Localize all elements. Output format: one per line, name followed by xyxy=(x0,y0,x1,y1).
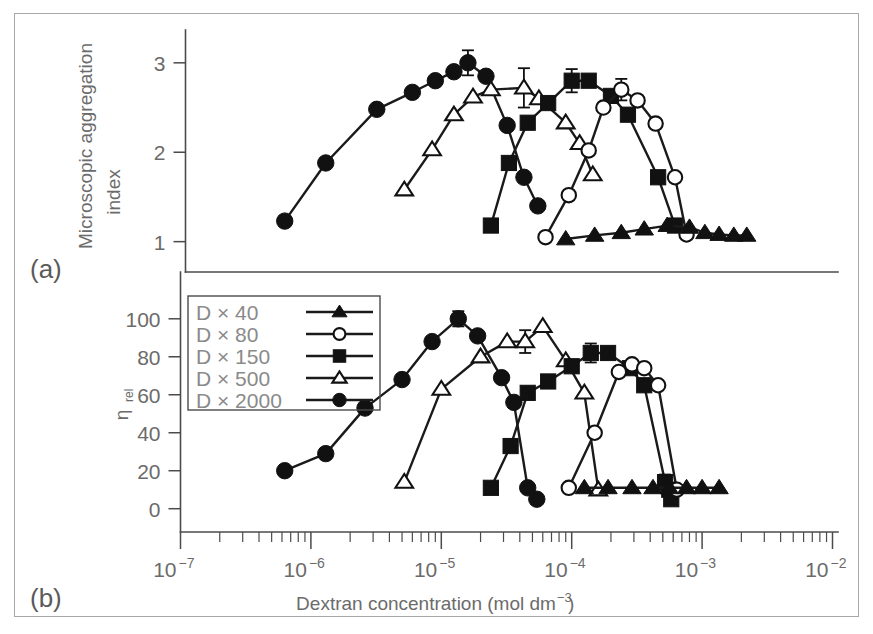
eta-symbol: η xyxy=(111,410,132,421)
data-point-marker xyxy=(587,426,601,440)
data-point-marker xyxy=(469,328,485,344)
data-point-marker xyxy=(493,369,509,385)
panel-b-y-tick-label: 60 xyxy=(137,384,160,407)
x-axis-tick-label: 10−4 xyxy=(544,555,586,581)
x-axis-title-close-paren: ) xyxy=(568,593,574,614)
data-point-marker xyxy=(584,166,602,180)
legend-item[interactable]: D × 2000 xyxy=(196,389,373,412)
data-point-marker xyxy=(651,170,666,185)
data-point-marker xyxy=(637,378,652,393)
data-point-marker xyxy=(530,198,546,214)
x-axis-tick-label: 10−2 xyxy=(805,555,847,581)
legend-item-label: D × 150 xyxy=(196,345,270,368)
panel-b-y-tick-label: 0 xyxy=(149,498,161,521)
data-point-marker xyxy=(564,359,579,374)
x-tick-mantissa: 10 xyxy=(544,558,567,581)
panel-a-y-tick-label: 1 xyxy=(154,231,166,254)
data-point-marker xyxy=(446,64,462,80)
data-point-marker xyxy=(423,141,441,155)
series-line xyxy=(546,90,687,238)
panel-a-y-tick-label: 3 xyxy=(154,52,166,75)
data-point-marker xyxy=(503,438,518,453)
x-axis-tick-label: 10−7 xyxy=(153,555,195,581)
legend-layer: D × 40D × 80D × 150D × 500D × 2000 xyxy=(188,296,380,412)
x-tick-mantissa: 10 xyxy=(805,558,828,581)
x-tick-mantissa: 10 xyxy=(675,558,698,581)
data-point-marker xyxy=(277,463,293,479)
x-axis-tick-label: 10−6 xyxy=(284,555,326,581)
data-point-marker xyxy=(395,474,413,488)
legend-item[interactable]: D × 80 xyxy=(196,323,373,346)
data-series xyxy=(277,50,547,229)
data-point-marker xyxy=(576,385,594,399)
data-point-marker xyxy=(357,400,373,416)
legend-item-label: D × 2000 xyxy=(196,389,282,412)
data-point-marker xyxy=(637,361,651,375)
data-point-marker xyxy=(614,82,628,96)
data-point-marker xyxy=(648,116,662,130)
x-tick-mantissa: 10 xyxy=(414,558,437,581)
panel-b-y-tick-label: 80 xyxy=(137,346,160,369)
data-point-marker xyxy=(575,479,593,493)
data-point-marker xyxy=(538,230,552,244)
data-point-marker xyxy=(623,479,641,493)
data-point-marker xyxy=(600,345,615,360)
data-point-marker xyxy=(612,365,626,379)
x-tick-exponent: −3 xyxy=(700,555,716,571)
x-tick-mantissa: 10 xyxy=(284,558,307,581)
legend-item[interactable]: D × 500 xyxy=(196,367,373,390)
data-point-marker xyxy=(693,479,711,493)
x-tick-mantissa: 10 xyxy=(153,558,176,581)
panel-a-y-tick-label: 2 xyxy=(154,141,166,164)
data-point-marker xyxy=(334,328,346,340)
data-point-marker xyxy=(277,213,293,229)
data-point-marker xyxy=(564,73,579,88)
panel-b-series-layer xyxy=(277,311,729,508)
data-point-marker xyxy=(516,169,532,185)
data-point-marker xyxy=(394,371,410,387)
labels-layer: Microscopic aggregationindexηrelDextran … xyxy=(30,43,574,614)
data-point-marker xyxy=(668,170,682,184)
data-point-marker xyxy=(483,218,498,233)
data-point-marker xyxy=(333,393,346,406)
eta-subscript: rel xyxy=(122,389,136,402)
x-axis-tick-label: 10−5 xyxy=(414,555,456,581)
data-point-marker xyxy=(499,117,515,133)
panel-b-y-tick-label: 100 xyxy=(125,308,160,331)
x-axis-title: Dextran concentration (mol dm−3) xyxy=(296,590,574,614)
panel-a-y-axis-title-line2: index xyxy=(103,169,124,215)
legend-item[interactable]: D × 40 xyxy=(196,301,373,324)
data-point-marker xyxy=(333,350,345,362)
panel-a-label: (a) xyxy=(30,254,62,284)
data-point-marker xyxy=(562,188,576,202)
data-point-marker xyxy=(318,155,334,171)
data-point-marker xyxy=(515,80,533,94)
data-point-marker xyxy=(541,374,556,389)
x-tick-exponent: −2 xyxy=(831,555,847,571)
data-point-marker xyxy=(651,378,665,392)
data-series xyxy=(557,217,756,245)
x-tick-exponent: −7 xyxy=(179,555,195,571)
figure-plot-canvas: 12302040608010010−710−610−510−410−310−2 … xyxy=(0,0,873,634)
data-point-marker xyxy=(534,318,552,332)
data-point-marker xyxy=(520,115,535,130)
data-point-marker xyxy=(562,481,576,495)
legend-item[interactable]: D × 150 xyxy=(196,345,373,368)
data-point-marker xyxy=(460,55,476,71)
data-point-marker xyxy=(583,345,598,360)
data-point-marker xyxy=(450,311,466,327)
data-point-marker xyxy=(404,84,420,100)
data-point-marker xyxy=(498,333,516,347)
data-point-marker xyxy=(427,73,443,89)
data-point-marker xyxy=(541,95,556,110)
data-point-marker xyxy=(424,333,440,349)
data-point-marker xyxy=(596,100,610,114)
data-point-marker xyxy=(529,491,545,507)
x-axis-title-main: Dextran concentration (mol dm xyxy=(296,593,556,614)
data-point-marker xyxy=(620,107,635,122)
data-point-marker xyxy=(581,73,596,88)
x-tick-exponent: −4 xyxy=(570,555,586,571)
legend-item-label: D × 500 xyxy=(196,367,270,390)
x-tick-exponent: −6 xyxy=(309,555,325,571)
legend-item-label: D × 40 xyxy=(196,301,258,324)
